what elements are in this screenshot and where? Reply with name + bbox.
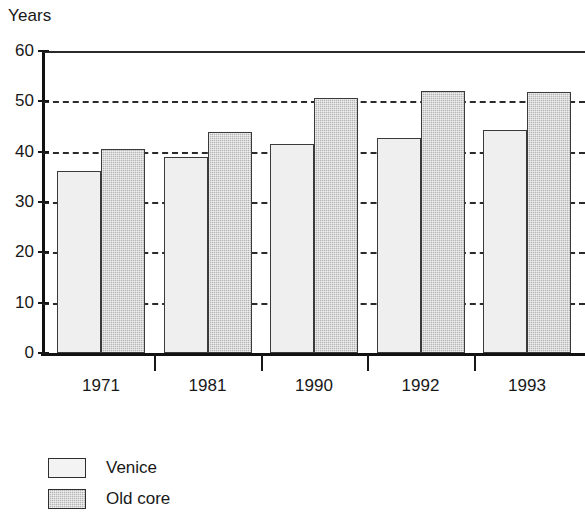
legend-item-old-core: Old core [48,483,170,514]
y-tick-label-10: 10 [15,293,34,313]
legend-swatch-old-core [48,489,86,509]
plot-area: 0102030405060 19711981199019921993 [43,51,585,353]
bar-venice-1992 [377,138,421,353]
y-tick-mark-0 [38,352,49,354]
bar-old-core-1990 [314,98,358,353]
gridline-60 [43,51,585,53]
bar-chart-figure: Years 0102030405060 19711981199019921993… [0,0,585,515]
bar-old-core-1981 [208,132,252,353]
bar-venice-1981 [164,157,208,353]
y-tick-mark-60 [38,50,49,52]
y-tick-label-50: 50 [15,91,34,111]
legend-label-old-core: Old core [106,489,170,509]
legend-swatch-venice [48,458,86,478]
y-tick-mark-50 [38,100,49,102]
x-tick-label-1971: 1971 [82,376,120,396]
y-tick-mark-40 [38,151,49,153]
y-tick-label-40: 40 [15,142,34,162]
y-axis-title: Years [8,6,51,26]
bar-venice-1993 [483,130,527,353]
x-tick-mark-3 [474,354,476,371]
y-tick-label-60: 60 [15,41,34,61]
bar-old-core-1971 [101,149,145,353]
x-tick-label-1990: 1990 [295,376,333,396]
bar-venice-1971 [57,171,101,353]
y-tick-mark-20 [38,251,49,253]
bar-old-core-1993 [527,92,571,353]
x-tick-label-1992: 1992 [402,376,440,396]
bar-venice-1990 [270,144,314,353]
x-axis-line [41,353,585,356]
legend-label-venice: Venice [106,458,157,478]
x-tick-label-1993: 1993 [508,376,546,396]
y-tick-label-20: 20 [15,242,34,262]
chart-legend: VeniceOld core [48,452,170,514]
x-tick-mark-1 [261,354,263,371]
legend-item-venice: Venice [48,452,170,483]
x-tick-label-1981: 1981 [189,376,227,396]
x-tick-mark-2 [367,354,369,371]
y-tick-mark-10 [38,302,49,304]
x-tick-mark-0 [154,354,156,371]
y-tick-mark-30 [38,201,49,203]
y-tick-label-0: 0 [25,343,34,363]
bar-old-core-1992 [421,91,465,353]
y-tick-label-30: 30 [15,192,34,212]
